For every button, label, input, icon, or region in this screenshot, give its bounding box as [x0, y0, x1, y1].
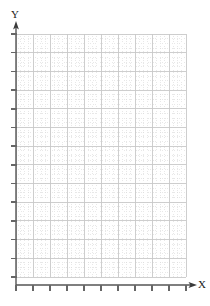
- y-axis: [13, 21, 19, 285]
- x-axis-label: X: [198, 279, 206, 290]
- plot-canvas: [0, 0, 210, 306]
- cartesian-grid-chart: Y X: [0, 0, 210, 306]
- x-axis: [16, 282, 197, 288]
- y-axis-label: Y: [11, 9, 19, 20]
